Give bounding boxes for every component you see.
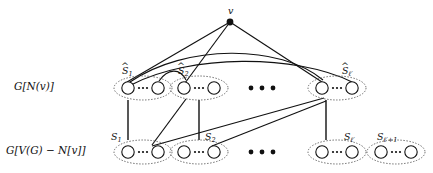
group-node-right <box>346 146 358 158</box>
arc-hat-s-1-to-hat-s-lprime-left <box>130 53 323 82</box>
group-label-s-lprime-plus-1: Sℓ′+1 <box>377 132 397 143</box>
group-node-left <box>178 146 190 158</box>
group-inner-ellipsis <box>194 151 204 153</box>
edge-v-to-hat-s-lprime <box>230 22 322 82</box>
group-node-right <box>346 82 358 94</box>
group-node-right <box>152 82 164 94</box>
group-node-left <box>122 146 134 158</box>
group-node-left <box>375 146 387 158</box>
top-row-ellipsis <box>249 86 276 91</box>
group-inner-ellipsis <box>138 151 148 153</box>
hat-accent-icon: ^ <box>177 61 185 71</box>
group-inner-ellipsis <box>138 87 148 89</box>
group-label-s-lprime: Sℓ′ <box>344 132 355 143</box>
group-hat-s-2 <box>170 76 228 100</box>
group-node-right <box>208 146 220 158</box>
apex-vertex-label: v <box>228 6 233 16</box>
group-hat-s-lprime <box>308 76 366 100</box>
row-label-top: G[N(v)] <box>14 81 54 92</box>
group-node-left <box>122 82 134 94</box>
group-node-right <box>208 82 220 94</box>
apex-vertex-dot <box>227 19 234 26</box>
group-label-s-2: S2 <box>205 132 216 143</box>
group-node-left <box>178 82 190 94</box>
graph-figure: v G[N(v)] G[V(G) − N[v]] ^S1 ^S2 ^Sℓ′ S1… <box>0 0 433 173</box>
bottom-row-ellipsis <box>249 150 276 155</box>
group-label-s-1: S1 <box>111 132 122 143</box>
group-label-hat-s-1: ^S1 <box>122 66 133 77</box>
group-inner-ellipsis <box>332 87 342 89</box>
row-label-bottom: G[V(G) − N[v]] <box>6 145 86 156</box>
group-node-right <box>152 146 164 158</box>
group-inner-ellipsis <box>194 87 204 89</box>
group-node-left <box>316 82 328 94</box>
hat-accent-icon: ^ <box>341 61 349 71</box>
group-s-2 <box>170 140 228 164</box>
diagonal-hat-s-lprime-to-s-1 <box>152 98 324 146</box>
group-node-left <box>316 146 328 158</box>
diagonal-link-group <box>152 98 326 146</box>
group-inner-ellipsis <box>332 151 342 153</box>
hat-accent-icon: ^ <box>121 61 129 71</box>
group-inner-ellipsis <box>391 151 401 153</box>
group-s-1 <box>114 140 172 164</box>
group-label-hat-s-lprime: ^Sℓ′ <box>342 66 353 77</box>
edge-v-to-hat-s-2 <box>185 22 230 83</box>
group-node-right <box>405 146 417 158</box>
diagonal-hat-s-lprime-to-s-2 <box>212 101 326 146</box>
group-label-hat-s-2: ^S2 <box>178 66 189 77</box>
group-s-lprime <box>308 140 366 164</box>
